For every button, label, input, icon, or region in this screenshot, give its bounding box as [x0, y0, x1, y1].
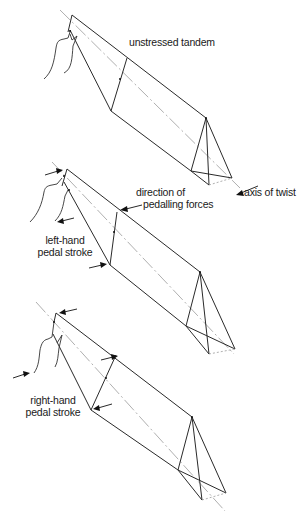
label-line: left-hand — [30, 234, 100, 246]
arrow-icon — [62, 218, 74, 221]
chain-stay-2 — [178, 470, 202, 500]
arrow-icon — [89, 265, 102, 268]
rear-seat-tube — [186, 272, 200, 326]
lower-tube — [111, 111, 191, 171]
arrow-icon — [45, 171, 58, 175]
arrow-icon — [98, 404, 112, 408]
chain-stay-2 — [186, 326, 209, 354]
head-tube — [54, 313, 56, 322]
seat-stay-1 — [200, 272, 209, 354]
label-line: pedal stroke — [30, 246, 100, 258]
seat-stay-1 — [206, 118, 209, 185]
arrow-icon — [13, 374, 25, 378]
chain-stay-2 — [191, 171, 209, 185]
tandem-frame-twist-diagram — [0, 0, 306, 522]
fork-outline — [64, 34, 77, 73]
mid-seat-tube — [111, 58, 127, 111]
mid-seat-tube — [91, 355, 116, 410]
label-unstressed-tandem: unstressed tandem — [129, 36, 215, 48]
lower-tube — [110, 265, 186, 326]
seat-stay-2 — [206, 118, 232, 178]
lower-tube — [91, 410, 178, 470]
mid-seat-tube — [110, 212, 117, 265]
handlebar-outline — [34, 322, 54, 373]
chain-stay-1 — [178, 470, 226, 493]
arrow-icon — [101, 357, 113, 360]
label-axis-of-twist: axis of twist — [244, 186, 296, 198]
label-line: direction of — [134, 186, 213, 198]
fork-outline — [55, 190, 68, 221]
top-tube — [72, 15, 206, 118]
label-right-hand-pedal-stroke: right-hand pedal stroke — [18, 394, 88, 418]
arrow-icon — [64, 309, 77, 312]
rear-seat-tube — [178, 417, 192, 470]
down-tube-front — [70, 30, 111, 111]
seat-stay-2 — [192, 417, 226, 493]
label-line: right-hand — [18, 394, 88, 406]
rear-seat-tube — [191, 118, 206, 171]
label-line: pedalling forces — [134, 198, 213, 210]
label-direction-of-pedalling-forces: direction of pedalling forces — [134, 186, 213, 210]
handlebar-outline — [30, 178, 62, 222]
head-tube — [68, 15, 72, 32]
label-left-hand-pedal-stroke: left-hand pedal stroke — [30, 234, 100, 258]
label-line: pedal stroke — [18, 406, 88, 418]
seat-stay-1 — [192, 417, 202, 500]
seat-stay-2 — [200, 272, 235, 349]
